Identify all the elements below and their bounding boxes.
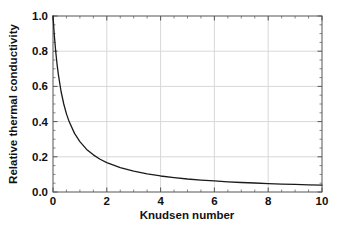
x-tick-label: 6 <box>211 195 217 207</box>
thermal-conductivity-chart: 0246810 0.00.20.40.60.81.0 Knudsen numbe… <box>0 0 343 225</box>
plot-area <box>53 16 322 192</box>
x-tick-label: 4 <box>157 195 164 207</box>
y-tick-label: 0.6 <box>32 80 48 92</box>
y-tick-label: 1.0 <box>32 10 48 22</box>
x-tick-label: 0 <box>50 195 56 207</box>
chart-figure: 0246810 0.00.20.40.60.81.0 Knudsen numbe… <box>0 0 343 225</box>
x-tick-label: 8 <box>265 195 272 207</box>
y-tick-label: 0.4 <box>32 116 49 128</box>
x-tick-label: 2 <box>104 195 110 207</box>
y-tick-label: 0.8 <box>32 45 49 57</box>
x-axis-title: Knudsen number <box>140 209 235 221</box>
y-tick-label: 0.0 <box>32 186 48 198</box>
y-axis-title: Relative thermal conductivity <box>7 24 19 184</box>
y-tick-label: 0.2 <box>32 151 48 163</box>
x-tick-label: 10 <box>316 195 329 207</box>
